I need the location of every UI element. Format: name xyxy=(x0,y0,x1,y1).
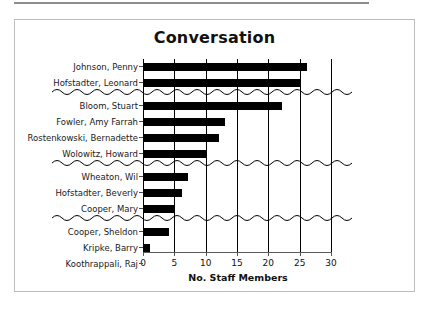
bar-row: Kripke, Barry xyxy=(143,240,331,256)
y-tick xyxy=(139,231,143,232)
bar xyxy=(144,79,301,87)
bar xyxy=(144,118,225,126)
category-label: Wheaton, Wil xyxy=(0,169,138,185)
y-tick xyxy=(139,192,143,193)
category-label: Johnson, Penny xyxy=(0,59,138,75)
bar-row: Wheaton, Wil xyxy=(143,169,331,185)
category-label: Hofstadter, Beverly xyxy=(0,185,138,201)
category-label: Fowler, Amy Farrah xyxy=(0,114,138,130)
category-label: Rostenkowski, Bernadette xyxy=(0,130,138,146)
chart-frame: Conversation 051015202530 Johnson, Penny… xyxy=(14,19,415,292)
bar xyxy=(144,244,150,252)
category-label: Cooper, Sheldon xyxy=(0,224,138,240)
bar xyxy=(144,205,175,213)
bar xyxy=(144,173,188,181)
category-label: Koothrappali, Raj xyxy=(0,256,138,272)
y-tick xyxy=(139,153,143,154)
y-tick xyxy=(139,176,143,177)
bar-row: Rostenkowski, Bernadette xyxy=(143,130,331,146)
y-tick xyxy=(139,247,143,248)
y-tick xyxy=(139,82,143,83)
bar-row: Cooper, Sheldon xyxy=(143,224,331,240)
bar-row: Koothrappali, Raj xyxy=(143,256,331,272)
category-label: Kripke, Barry xyxy=(0,240,138,256)
axis-break-wave xyxy=(52,158,352,167)
bar xyxy=(144,228,169,236)
plot-area: 051015202530 Johnson, PennyHofstadter, L… xyxy=(143,59,331,252)
y-tick xyxy=(139,66,143,67)
bar-row: Johnson, Penny xyxy=(143,59,331,75)
bar xyxy=(144,150,207,158)
bar-row: Hofstadter, Beverly xyxy=(143,185,331,201)
y-tick xyxy=(139,137,143,138)
y-tick xyxy=(139,121,143,122)
y-tick xyxy=(139,105,143,106)
x-axis-title: No. Staff Members xyxy=(83,272,393,283)
category-label: Bloom, Stuart xyxy=(0,98,138,114)
top-divider-rule xyxy=(14,2,369,4)
bar xyxy=(144,134,219,142)
bar xyxy=(144,63,307,71)
chart-title: Conversation xyxy=(15,28,414,47)
bar-row: Bloom, Stuart xyxy=(143,98,331,114)
axis-break-wave xyxy=(52,87,352,96)
bar-row: Fowler, Amy Farrah xyxy=(143,114,331,130)
bar xyxy=(144,189,182,197)
y-tick xyxy=(139,208,143,209)
axis-break-wave xyxy=(52,213,352,222)
bar xyxy=(144,102,282,110)
y-tick xyxy=(139,263,143,264)
x-tick-30 xyxy=(331,252,332,256)
